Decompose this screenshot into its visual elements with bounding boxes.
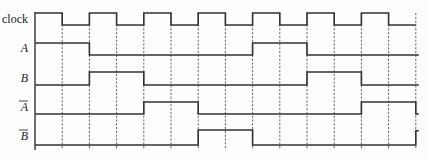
waveform-a-bar: [35, 102, 419, 114]
signal-label-b-bar: B: [21, 129, 29, 143]
signal-label-b: B: [21, 71, 29, 85]
waveform-clock: [35, 13, 416, 25]
signal-label-clock: clock: [2, 12, 28, 26]
waveform-b: [35, 72, 419, 85]
signal-label-a-bar: A: [20, 100, 29, 114]
signal-label-a: A: [20, 41, 29, 55]
timing-diagram-canvas: clockABAB: [0, 0, 427, 162]
timing-diagram: clockABAB: [0, 0, 427, 162]
